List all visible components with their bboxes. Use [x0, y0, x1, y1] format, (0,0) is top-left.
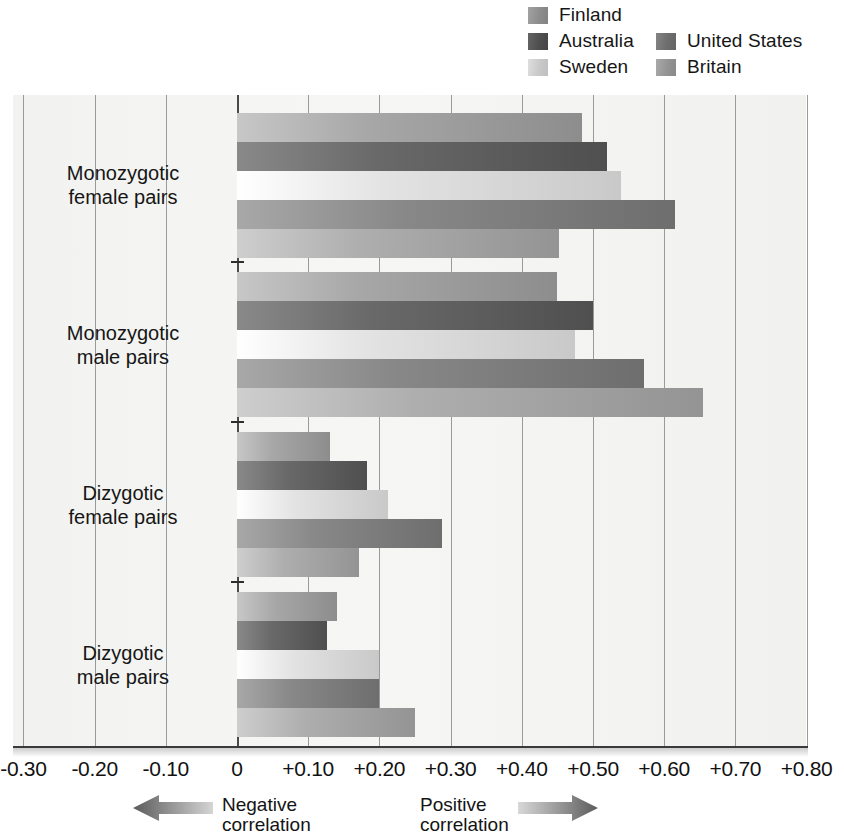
positive-correlation-caption: Positive correlation: [420, 795, 509, 834]
group-separator-tick-2: [231, 581, 244, 583]
x-tick-label-4: +0.10: [282, 757, 334, 781]
chart-legend: Finland Australia Sweden United States B…: [528, 2, 844, 86]
bar-australia-group-1: [237, 301, 593, 330]
right-arrow-icon: [518, 795, 598, 821]
x-tick-label-8: +0.50: [567, 757, 619, 781]
legend-swatch-finland: [528, 7, 548, 24]
category-label-1: Monozygoticmale pairs: [18, 321, 228, 369]
legend-label-britain: Britain: [687, 56, 742, 78]
bar-united-states-group-0: [237, 200, 675, 229]
bar-britain-group-2: [237, 548, 359, 577]
negative-correlation-caption: Negative correlation: [222, 795, 311, 834]
group-separator-tick-0: [231, 261, 244, 263]
group-separator-tick-1: [231, 421, 244, 423]
negative-correlation-line1: Negative: [222, 795, 311, 815]
x-tick-label-7: +0.40: [496, 757, 548, 781]
bar-finland-group-2: [237, 432, 330, 461]
legend-item-sweden: Sweden: [528, 54, 634, 80]
x-tick-label-2: -0.10: [143, 757, 189, 781]
x-tick-label-9: +0.60: [638, 757, 690, 781]
bar-united-states-group-1: [237, 359, 644, 388]
x-tick-label-6: +0.30: [425, 757, 477, 781]
category-label-1-line-1: male pairs: [18, 345, 228, 369]
legend-label-finland: Finland: [559, 4, 622, 26]
legend-item-united-states: United States: [656, 28, 802, 54]
category-label-2-line-1: female pairs: [18, 505, 228, 529]
legend-item-australia: Australia: [528, 28, 634, 54]
bar-finland-group-3: [237, 592, 337, 621]
bar-finland-group-1: [237, 272, 557, 301]
gridline-0_6: [664, 95, 665, 747]
bar-sweden-group-2: [237, 490, 388, 519]
bar-sweden-group-3: [237, 650, 379, 679]
x-tick-label-11: +0.80: [781, 757, 833, 781]
bar-united-states-group-2: [237, 519, 442, 548]
legend-swatch-united-states: [656, 33, 676, 50]
category-label-0: Monozygoticfemale pairs: [18, 161, 228, 209]
x-tick-label-1: -0.20: [71, 757, 117, 781]
legend-swatch-australia: [528, 33, 548, 50]
bar-australia-group-3: [237, 621, 327, 650]
x-tick-label-0: -0.30: [0, 757, 46, 781]
legend-swatch-sweden: [528, 59, 548, 76]
category-label-2-line-0: Dizygotic: [18, 481, 228, 505]
positive-correlation-line1: Positive: [420, 795, 509, 815]
legend-column-one: Finland Australia Sweden: [528, 2, 634, 80]
bar-australia-group-0: [237, 142, 607, 171]
bar-sweden-group-1: [237, 330, 575, 359]
bar-finland-group-0: [237, 113, 582, 142]
legend-label-sweden: Sweden: [559, 56, 628, 78]
x-axis-shadow: [13, 748, 808, 757]
bar-britain-group-0: [237, 229, 559, 258]
gridline-0_8: [807, 95, 808, 747]
gridline-0_7: [735, 95, 736, 747]
legend-item-finland: Finland: [528, 2, 634, 28]
legend-swatch-britain: [656, 59, 676, 76]
positive-correlation-line2: correlation: [420, 815, 509, 834]
category-label-3: Dizygoticmale pairs: [18, 641, 228, 689]
chart-root: Finland Australia Sweden United States B…: [0, 0, 844, 834]
category-label-0-line-0: Monozygotic: [18, 161, 228, 185]
bar-britain-group-3: [237, 708, 415, 737]
x-tick-label-10: +0.70: [710, 757, 762, 781]
category-label-3-line-0: Dizygotic: [18, 641, 228, 665]
x-tick-label-3: 0: [231, 757, 242, 781]
negative-correlation-line2: correlation: [222, 815, 311, 834]
category-label-3-line-1: male pairs: [18, 665, 228, 689]
bar-britain-group-1: [237, 388, 703, 417]
left-arrow-icon: [133, 795, 213, 821]
bar-australia-group-2: [237, 461, 367, 490]
legend-item-britain: Britain: [656, 54, 802, 80]
legend-label-united-states: United States: [687, 30, 802, 52]
bar-sweden-group-0: [237, 171, 621, 200]
bar-united-states-group-3: [237, 679, 379, 708]
negative-correlation-group: Negative correlation: [133, 795, 311, 834]
positive-correlation-group: Positive correlation: [420, 795, 598, 834]
category-label-0-line-1: female pairs: [18, 185, 228, 209]
correlation-direction-footer: Negative correlation Positive correlatio…: [0, 795, 844, 834]
x-tick-label-5: +0.20: [354, 757, 406, 781]
category-label-2: Dizygoticfemale pairs: [18, 481, 228, 529]
legend-label-australia: Australia: [559, 30, 634, 52]
category-label-1-line-0: Monozygotic: [18, 321, 228, 345]
legend-column-two: United States Britain: [656, 28, 802, 80]
